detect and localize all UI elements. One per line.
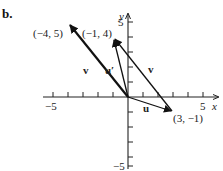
vector-u	[128, 97, 171, 111]
vector-diagram: b. −5 5 x	[0, 0, 223, 171]
point-label-u-tip: (3, −1)	[173, 112, 203, 125]
x-tick-label-neg5: −5	[45, 100, 57, 112]
point-label-v-tip: (−4, 5)	[33, 27, 63, 40]
vector-v-translated	[115, 39, 172, 111]
x-axis: −5 5 x	[43, 92, 219, 112]
y-tick-label-5: 5	[118, 16, 124, 28]
x-axis-label: x	[211, 100, 217, 112]
part-label: b.	[2, 6, 12, 21]
point-label-u-prime-tip: (−1, 4)	[82, 27, 112, 40]
x-tick-label-5: 5	[200, 100, 206, 112]
vector-label-u: u	[143, 102, 149, 114]
vector-label-v: v	[83, 64, 89, 76]
y-tick-label-neg5: −5	[113, 160, 125, 171]
vector-label-u-prime: u′	[105, 64, 114, 76]
vector-label-v-translated: v	[148, 63, 154, 75]
